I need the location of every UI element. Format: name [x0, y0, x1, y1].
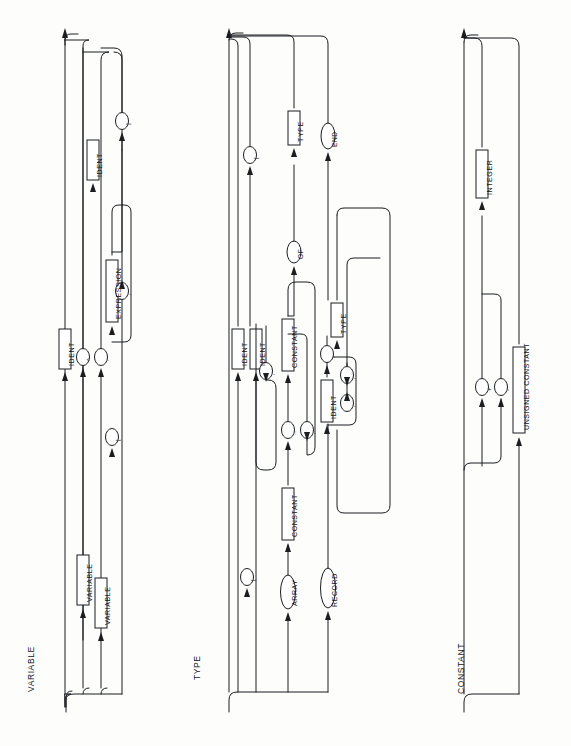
railroad-tracks-canvas — [0, 0, 571, 746]
node-label-constant-hi: CONSTANT — [291, 325, 298, 368]
terminal-label-minus: - — [505, 388, 511, 391]
terminal-lbracket-array — [241, 569, 254, 586]
terminal-rbracket — [116, 113, 129, 130]
terminal-label-caret: ^ — [86, 358, 92, 361]
terminal-minus — [495, 379, 508, 396]
terminal-label-semicolon: ; — [350, 377, 356, 379]
node-label-ident-rec-field: IDENT — [330, 395, 337, 419]
diagram-title-constant: CONSTANT — [456, 643, 466, 694]
syntax-diagram-page: VARIABLE IDENT VARIABLE VARIABLE IDENT E… — [0, 0, 571, 746]
node-label-constant-lo: CONSTANT — [291, 494, 298, 537]
diagram-type — [226, 28, 390, 712]
terminal-label-comma-var: , — [125, 293, 131, 295]
terminal-label-comma-rec: , — [350, 405, 356, 407]
terminal-colon — [321, 346, 334, 363]
diagram-constant — [461, 28, 525, 712]
terminal-label-colon: : — [330, 356, 336, 358]
node-label-ident-field: IDENT — [96, 153, 103, 177]
terminal-label-dotdot: .. — [291, 430, 297, 435]
terminal-label-plus: + — [486, 387, 492, 391]
terminal-lbracket — [106, 429, 119, 446]
node-label-ident-enum: IDENT — [259, 342, 266, 366]
node-label-type-rec-field: TYPE — [340, 313, 347, 334]
terminal-lbracket-type — [244, 147, 257, 164]
node-label-variable-index: VARIABLE — [104, 586, 111, 625]
terminal-label-lbracket: [ — [115, 439, 121, 441]
node-label-ident-entry: IDENT — [68, 342, 75, 366]
terminal-label-dot: . — [104, 359, 110, 361]
terminal-label-rbracket: ] — [125, 123, 131, 125]
terminal-label-array: ARRAY — [291, 579, 298, 606]
node-label-unsigned-constant: UNSIGNED CONSTANT — [523, 343, 530, 430]
terminal-caret — [95, 349, 108, 366]
terminal-label-record: RECORD — [331, 573, 338, 607]
node-label-variable-field: VARIABLE — [86, 563, 93, 602]
terminal-label-comma-enum: , — [269, 373, 275, 375]
node-label-integer: INTEGER — [486, 160, 493, 195]
node-label-type-elem: TYPE — [297, 121, 304, 142]
node-label-ident-simple: IDENT — [241, 342, 248, 366]
terminal-label-of: OF — [297, 249, 304, 259]
terminal-label-comma-array: , — [310, 432, 316, 434]
diagram-title-type: TYPE — [192, 655, 202, 680]
diagram-title-variable: VARIABLE — [26, 646, 36, 692]
terminal-label-lbracket-array: [ — [250, 579, 256, 581]
diagram-variable — [59, 28, 131, 712]
terminal-label-end: END — [331, 131, 338, 147]
terminal-label-lbracket-type: [ — [253, 157, 259, 159]
node-label-expression: EXPRESSION — [115, 267, 122, 319]
